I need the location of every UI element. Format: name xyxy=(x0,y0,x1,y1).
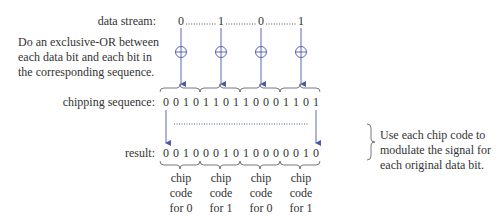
chip-group-brace xyxy=(240,84,280,92)
result-group-brace xyxy=(280,161,320,169)
diagram-graphics xyxy=(0,0,504,219)
result-group-brace xyxy=(200,161,240,169)
chip-group-brace xyxy=(200,84,240,92)
result-group-brace xyxy=(160,161,200,169)
chip-group-brace xyxy=(280,84,320,92)
modulate-brace xyxy=(367,124,375,160)
chip-group-brace xyxy=(160,84,200,92)
result-group-brace xyxy=(240,161,280,169)
